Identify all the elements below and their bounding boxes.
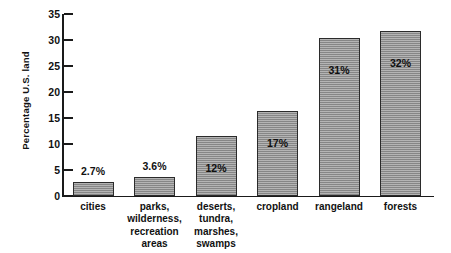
y-tick-label-5: 5 <box>36 165 60 175</box>
bar-value-label-3: 17% <box>248 138 308 149</box>
bar-chart: Percentage U.S. land 35302520151050 2.7%… <box>0 0 451 253</box>
category-label-line: tundra, <box>178 213 254 225</box>
bar-value-label-4: 31% <box>309 65 369 76</box>
category-label-line: swamps <box>178 238 254 250</box>
bar-value-label-1: 3.6% <box>125 161 185 172</box>
plot-area: 35302520151050 2.7%3.6%12%17%31%32% citi… <box>0 0 451 253</box>
y-tick-label-10: 10 <box>36 139 60 149</box>
y-tick-0 <box>64 195 73 196</box>
y-tick-10 <box>64 143 73 144</box>
x-axis-line <box>62 196 434 198</box>
y-tick-20 <box>64 91 73 92</box>
y-tick-30 <box>64 39 73 40</box>
y-tick-label-35: 35 <box>36 9 60 19</box>
bar-cropland <box>257 111 298 196</box>
bar-rangeland <box>319 38 360 196</box>
bar-value-label-0: 2.7% <box>63 166 123 177</box>
y-tick-25 <box>64 65 73 66</box>
category-label-line: forests <box>363 201 439 213</box>
y-tick-label-0: 0 <box>36 191 60 201</box>
category-label-line: marshes, <box>178 226 254 238</box>
y-tick-35 <box>64 13 73 14</box>
y-tick-label-30: 30 <box>36 35 60 45</box>
bar-parks <box>134 177 175 196</box>
y-tick-label-15: 15 <box>36 113 60 123</box>
y-tick-15 <box>64 117 73 118</box>
category-label-5: forests <box>363 201 439 213</box>
bar-value-label-2: 12% <box>186 163 246 174</box>
y-tick-label-25: 25 <box>36 61 60 71</box>
bar-cities <box>73 182 114 196</box>
bar-forests <box>380 31 421 196</box>
bar-value-label-5: 32% <box>371 58 431 69</box>
y-tick-label-20: 20 <box>36 87 60 97</box>
